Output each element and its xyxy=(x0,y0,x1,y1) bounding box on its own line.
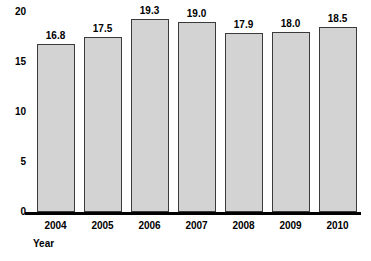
bar-chart: 05101520 16.817.519.319.017.918.018.5 20… xyxy=(0,0,371,261)
bar[interactable] xyxy=(84,37,122,212)
bar-slot: 17.9 xyxy=(225,12,263,212)
y-axis-tick-label: 15 xyxy=(0,57,26,67)
x-axis-tick-label: 2007 xyxy=(173,220,220,232)
x-axis-tick-labels: 2004200520062007200820092010 xyxy=(32,220,361,234)
bar[interactable] xyxy=(225,33,263,212)
y-axis-tick-label: 20 xyxy=(0,7,26,17)
x-axis-tick-label: 2010 xyxy=(314,220,361,232)
bar-slot: 17.5 xyxy=(84,12,122,212)
bar[interactable] xyxy=(272,32,310,212)
bar[interactable] xyxy=(131,19,169,212)
bar-slot: 18.0 xyxy=(272,12,310,212)
x-axis-tick-label: 2004 xyxy=(32,220,79,232)
bar-slot: 16.8 xyxy=(37,12,75,212)
y-axis-tick-label: 10 xyxy=(0,107,26,117)
bar-slot: 18.5 xyxy=(319,12,357,212)
bar[interactable] xyxy=(178,22,216,212)
bar-value-label: 19.0 xyxy=(169,9,225,19)
bar[interactable] xyxy=(319,27,357,212)
y-axis-tick-label: 5 xyxy=(0,157,26,167)
bar-value-label: 18.5 xyxy=(310,14,366,24)
bar-slot: 19.3 xyxy=(131,12,169,212)
y-axis-tick-label: 0 xyxy=(0,207,26,217)
plot-area: 16.817.519.319.017.918.018.5 xyxy=(32,12,361,212)
bar[interactable] xyxy=(37,44,75,212)
bar-value-label: 17.5 xyxy=(75,24,131,34)
x-axis-title: Year xyxy=(33,238,54,250)
x-axis-tick-label: 2006 xyxy=(126,220,173,232)
x-axis-tick-label: 2008 xyxy=(220,220,267,232)
bar-slot: 19.0 xyxy=(178,12,216,212)
x-axis-tick-label: 2009 xyxy=(267,220,314,232)
x-axis-line xyxy=(25,212,361,215)
x-axis-tick-label: 2005 xyxy=(79,220,126,232)
